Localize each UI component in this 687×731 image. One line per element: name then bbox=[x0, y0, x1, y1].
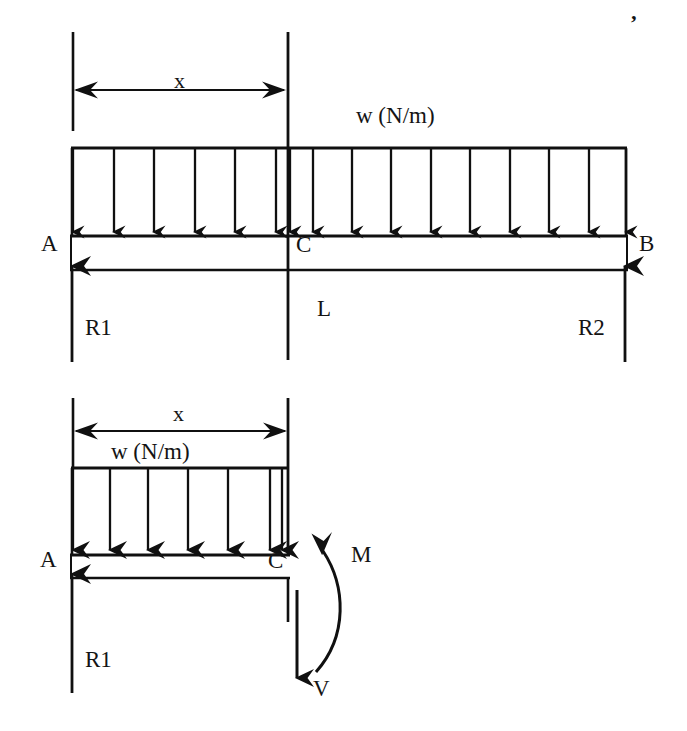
top-reactions-group bbox=[72, 266, 625, 362]
support-label-a-bottom: A bbox=[40, 548, 57, 571]
internal-forces-group bbox=[297, 551, 340, 678]
shear-label-v: V bbox=[313, 677, 330, 700]
load-label-w-bottom: w (N/m) bbox=[111, 440, 190, 463]
reaction-label-r1-top: R1 bbox=[85, 316, 112, 339]
bottom-distributed-load-group bbox=[71, 468, 289, 555]
figure-canvas: x w (N/m) A C B L R1 R2 x w (N/m) A C R1… bbox=[0, 0, 687, 731]
support-label-b-top: B bbox=[639, 232, 654, 255]
support-label-a-top: A bbox=[41, 232, 58, 255]
moment-label-m: M bbox=[351, 543, 371, 566]
section-label-c-bottom: C bbox=[268, 549, 283, 572]
stray-apostrophe-mark: ’ bbox=[630, 12, 637, 34]
reaction-label-r2-top: R2 bbox=[578, 316, 605, 339]
top-distributed-load-group bbox=[71, 148, 627, 236]
bending-moment-m-arc bbox=[316, 551, 340, 672]
load-label-w-top: w (N/m) bbox=[356, 104, 435, 127]
bottom-beam-segment bbox=[70, 555, 290, 578]
reaction-label-r1-bottom: R1 bbox=[85, 648, 112, 671]
top-beam bbox=[70, 236, 628, 270]
dimension-label-x-top: x bbox=[174, 70, 185, 92]
section-label-c-top: C bbox=[296, 233, 311, 256]
span-label-l: L bbox=[317, 297, 331, 320]
dimension-label-x-bottom: x bbox=[173, 403, 184, 425]
diagram-svg bbox=[0, 0, 687, 731]
